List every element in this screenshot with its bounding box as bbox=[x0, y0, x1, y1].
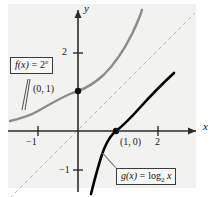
x-axis-label: x bbox=[203, 120, 208, 132]
y-tick-label-neg1: −1 bbox=[59, 164, 70, 175]
point-label-0-1: (0, 1) bbox=[33, 83, 54, 94]
g-log-argument: x bbox=[167, 170, 171, 181]
g-function-callout: g(x) = log2 x bbox=[116, 168, 176, 185]
point-label-1-0: (1, 0) bbox=[120, 136, 141, 147]
f-function-callout: f(x) = 2x bbox=[10, 57, 53, 74]
graph-canvas bbox=[0, 0, 218, 197]
y-tick-label-2: 2 bbox=[62, 46, 67, 57]
point-marker-1-0 bbox=[113, 128, 119, 134]
f-exponent: x bbox=[45, 58, 48, 66]
y-axis-label: y bbox=[84, 2, 89, 14]
g-log-operator: log bbox=[148, 170, 161, 181]
g-callout-leader bbox=[101, 152, 117, 169]
g-function-name: g(x) bbox=[121, 170, 137, 181]
x-axis-arrow bbox=[188, 128, 196, 135]
point-marker-0-1 bbox=[75, 88, 81, 94]
f-callout-leader bbox=[22, 79, 30, 110]
f-equals-sign: = bbox=[31, 59, 37, 70]
f-function-name: f(x) bbox=[15, 59, 29, 70]
g-log-base: 2 bbox=[161, 176, 165, 184]
y-axis-arrow bbox=[75, 10, 82, 18]
x-tick-label-2: 2 bbox=[155, 136, 160, 147]
x-tick-label-neg1: −1 bbox=[26, 136, 37, 147]
function-graph-figure: y x 2 −1 −1 2 (0, 1) (1, 0) f(x) = 2x g(… bbox=[0, 0, 218, 197]
g-equals-sign: = bbox=[140, 170, 146, 181]
